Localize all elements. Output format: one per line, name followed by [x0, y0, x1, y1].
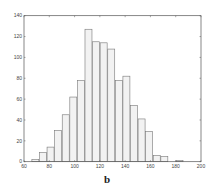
histogram-bar [161, 156, 168, 161]
histogram-bar [138, 119, 145, 162]
histogram-bar [70, 97, 77, 162]
histogram-bar [77, 80, 84, 161]
histogram-bar [131, 105, 138, 161]
histogram-bar [47, 147, 54, 162]
histogram-bars [32, 29, 183, 161]
y-tick-label: 20 [16, 138, 22, 144]
y-tick-label: 0 [19, 158, 22, 164]
y-tick-label: 100 [14, 54, 23, 60]
histogram-bar [39, 152, 46, 161]
figure-caption: b [0, 173, 214, 185]
x-tick-label: 120 [96, 163, 105, 169]
x-tick-label: 100 [70, 163, 79, 169]
histogram-bar [100, 43, 107, 162]
x-tick-label: 200 [197, 163, 206, 169]
histogram-bar [55, 130, 62, 161]
histogram-bar [93, 42, 100, 162]
histogram-bar [123, 76, 130, 162]
y-tick-label: 80 [16, 75, 22, 81]
histogram-bar [146, 131, 153, 161]
histogram-bar [153, 155, 160, 161]
y-tick-label: 140 [14, 12, 23, 18]
histogram-bar [85, 29, 92, 161]
y-tick-label: 40 [16, 117, 22, 123]
histogram-bar [108, 49, 115, 162]
histogram-bar [115, 80, 122, 161]
y-tick-label: 60 [16, 96, 22, 102]
histogram-chart: 6080100120140160180200 02040608010012014… [0, 0, 214, 194]
x-tick-label: 140 [121, 163, 130, 169]
histogram-bar [62, 115, 69, 162]
x-tick-label: 80 [47, 163, 53, 169]
x-tick-label: 180 [172, 163, 181, 169]
x-tick-label: 160 [146, 163, 155, 169]
x-tick-label: 60 [21, 163, 27, 169]
y-tick-label: 120 [14, 33, 23, 39]
